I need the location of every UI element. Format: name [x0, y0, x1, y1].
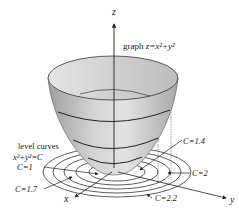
- level-curves-equation: x²+y²=C: [12, 152, 43, 162]
- z-axis-label: z: [111, 6, 116, 17]
- label-c1.7: C=1.7: [15, 184, 38, 194]
- label-c2.2: C=2.2: [155, 193, 178, 203]
- level-curves-title: level curves: [18, 141, 59, 151]
- top-rim: [48, 56, 178, 100]
- graph-label: graph z=x²+y²: [123, 41, 175, 51]
- y-axis-label: y: [229, 194, 235, 205]
- x-axis-label: x: [63, 193, 69, 204]
- label-c2: C=2: [192, 168, 208, 178]
- paraboloid-diagram: z x y graph z=x²+y² level curves x²+y²=C…: [0, 0, 239, 214]
- label-c1: C=1: [17, 162, 33, 172]
- label-c1.4: C=1.4: [183, 136, 206, 146]
